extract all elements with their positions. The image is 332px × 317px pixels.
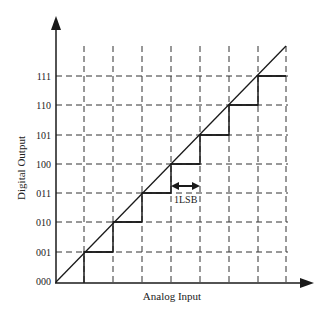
y-tick-110: 110 [36,100,51,111]
staircase-treads [84,76,286,252]
y-axis-arrow-icon [51,16,61,30]
y-tick-001: 001 [36,247,51,258]
y-tick-011: 011 [36,188,51,199]
y-tick-100: 100 [36,159,51,170]
x-axis-arrow-icon [300,278,314,288]
y-tick-010: 010 [36,217,51,228]
y-tick-101: 101 [36,130,51,141]
x-axis-label: Analog Input [143,290,201,302]
y-tick-labels: 000 001 010 011 100 101 110 111 [36,71,51,287]
y-tick-111: 111 [37,71,51,82]
y-axis-label: Digital Output [15,136,27,200]
lsb-double-arrow-icon [171,182,200,190]
y-tick-000: 000 [36,276,51,287]
quantized-staircase [84,76,286,283]
adc-transfer-diagram: 1LSB 000 001 010 011 100 101 110 111 Ana… [0,0,332,317]
lsb-label: 1LSB [174,194,198,205]
